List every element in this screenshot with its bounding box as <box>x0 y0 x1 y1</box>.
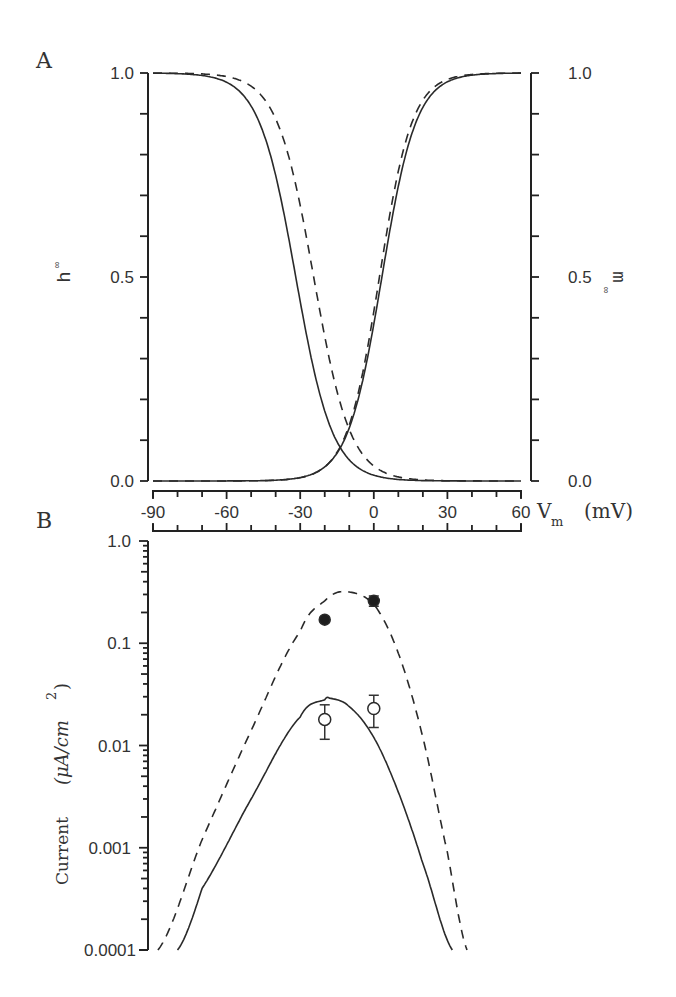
panel-a: 1.0 0.5 0.0 1.0 0.5 0.0 h ∞ m ∞ <box>52 64 629 491</box>
panel-b-label: B <box>36 508 52 533</box>
panel-a-right-ticks <box>531 73 539 481</box>
filled-data-point <box>368 595 379 606</box>
current-unit: (μA/cm <box>51 720 72 785</box>
panel-b-ytick-0001: 0.001 <box>88 839 131 858</box>
xtick-30: 30 <box>438 503 457 522</box>
vm-subscript: m <box>551 514 563 529</box>
xtick-minus90: -90 <box>141 503 166 522</box>
current-unit-close: ) <box>51 683 72 690</box>
panel-b-ylabel: Current (μA/cm 2 ) <box>44 683 72 885</box>
panel-b-ytick-00001: 0.0001 <box>84 941 136 960</box>
panel-a-left-ytick-1: 1.0 <box>110 64 134 83</box>
figure: A B 1.0 0.5 0.0 1.0 0.5 0.0 h ∞ m ∞ -90 <box>0 0 676 997</box>
open-data-point <box>319 713 331 725</box>
panel-a-curves <box>153 73 521 481</box>
panel-a-left-ticks <box>140 73 148 481</box>
panel-a-left-ytick-05: 0.5 <box>110 268 134 287</box>
m-inf-curve <box>153 73 521 481</box>
xtick-minus60: -60 <box>214 503 239 522</box>
panel-b: 1.0 0.1 0.01 0.001 0.0001 Current (μA/cm… <box>44 532 467 960</box>
x-axis-label: V m (mV) <box>536 499 633 529</box>
current-curve-dashed <box>158 592 467 951</box>
xtick-60: 60 <box>512 503 531 522</box>
xtick-0: 0 <box>369 503 378 522</box>
panel-b-ytick-001: 0.01 <box>98 737 131 756</box>
panel-a-right-ytick-1: 1.0 <box>568 64 592 83</box>
inf-subscript: ∞ <box>52 262 63 268</box>
open-data-point <box>368 703 380 715</box>
panel-a-right-ytick-05: 0.5 <box>568 268 592 287</box>
current-curve-solid <box>178 697 453 950</box>
current-label: Current <box>52 817 72 885</box>
vm-unit: (mV) <box>584 499 633 523</box>
x-axis-bottom-line <box>153 524 521 531</box>
panel-b-y-ticks <box>139 541 148 950</box>
h-inf-curve <box>153 73 521 481</box>
panel-a-right-ylabel: m ∞ <box>600 271 629 293</box>
panel-a-left-ylabel: h ∞ <box>52 262 76 283</box>
panel-a-left-ytick-0: 0.0 <box>110 472 134 491</box>
m-inf-label: m <box>607 271 629 282</box>
panel-b-ytick-01: 0.1 <box>107 634 131 653</box>
h-inf-curve <box>153 73 521 481</box>
m-inf-curve <box>153 73 521 481</box>
x-axis: -90 -60 -30 0 30 60 V m (mV) <box>141 491 633 531</box>
panel-a-label: A <box>35 48 53 73</box>
current-unit-exponent: 2 <box>44 692 59 700</box>
x-axis-top-line <box>153 491 521 498</box>
vm-v: V <box>536 499 552 523</box>
panel-b-ytick-1: 1.0 <box>107 532 131 551</box>
h-inf-label: h <box>54 271 76 282</box>
xtick-minus30: -30 <box>288 503 313 522</box>
panel-b-markers <box>319 595 380 739</box>
filled-data-point <box>319 614 330 625</box>
panel-a-right-ytick-0: 0.0 <box>568 472 592 491</box>
inf-subscript: ∞ <box>600 287 611 293</box>
panel-b-curves <box>158 592 467 951</box>
x-axis-ticks <box>153 491 521 531</box>
